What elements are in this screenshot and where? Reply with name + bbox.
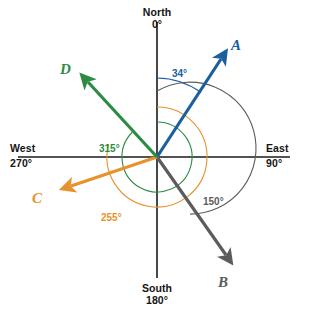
angle-label-255: 255° <box>101 212 122 223</box>
cardinal-north-name: North <box>143 6 172 18</box>
cardinal-south-degrees: 180° <box>146 294 168 306</box>
angle-labels: 34° 150° 255° 315° <box>99 68 224 223</box>
angle-label-150: 150° <box>203 196 224 207</box>
vector-label-A: A <box>230 37 241 53</box>
compass-axes <box>18 22 290 278</box>
cardinal-south-name: South <box>142 282 172 294</box>
angle-label-34: 34° <box>172 68 187 79</box>
bearing-diagram-svg: A B C D 34° 150° 255° 315° North 0° Sout… <box>0 0 309 318</box>
angle-label-315: 315° <box>99 143 120 154</box>
cardinal-labels: North 0° South 180° West 270° East 90° <box>10 6 289 306</box>
cardinal-east-name: East <box>266 142 289 154</box>
bearing-diagram: A B C D 34° 150° 255° 315° North 0° Sout… <box>0 0 309 318</box>
vector-label-B: B <box>217 274 228 290</box>
cardinal-north-degrees: 0° <box>152 18 162 30</box>
arc-A-34 <box>157 78 201 92</box>
vector-label-D: D <box>59 61 71 77</box>
cardinal-east-degrees: 90° <box>266 157 282 169</box>
vector-label-C: C <box>32 190 43 206</box>
cardinal-west-degrees: 270° <box>10 157 32 169</box>
cardinal-west-name: West <box>10 142 36 154</box>
